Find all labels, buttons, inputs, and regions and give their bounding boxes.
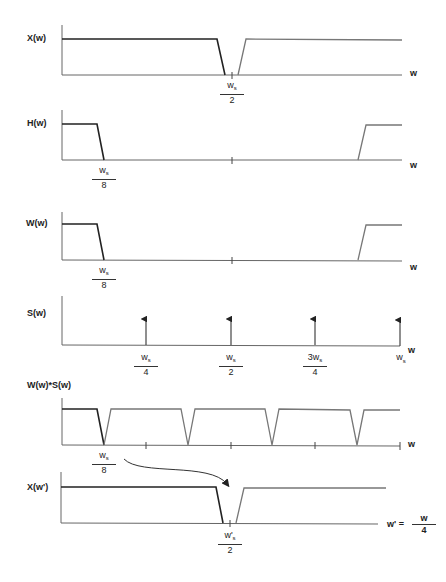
- tick-label-ws-over-2: ws 2: [220, 80, 244, 105]
- tick-label-ws-over-2-s: ws 2: [219, 352, 243, 377]
- panel-x: [62, 25, 402, 79]
- panel-h: [62, 110, 402, 164]
- tick-label-ws-over-8-w: ws 8: [92, 265, 116, 290]
- xlabel-x-prime: w' =: [387, 519, 404, 529]
- panel-w: [62, 212, 402, 264]
- tick-label-ws-over-8-conv: ws 8: [92, 450, 116, 475]
- ylabel-w: W(w): [26, 218, 48, 228]
- ylabel-convolution: W(w)*S(w): [27, 380, 71, 390]
- panel-s: [62, 296, 400, 346]
- panel-convolution: [62, 398, 400, 450]
- xlabel-x-prime-fraction: w 4: [412, 513, 436, 535]
- tick-label-ws-over-4: ws 4: [134, 352, 158, 377]
- tick-label-ws-over-8-h: ws 8: [92, 165, 116, 190]
- tick-label-wps-over-2: w's 2: [218, 530, 242, 555]
- xlabel-convolution: w: [408, 439, 415, 449]
- tick-label-3ws-over-4: 3ws 4: [303, 352, 327, 377]
- ylabel-h: H(w): [27, 118, 47, 128]
- ylabel-s: S(w): [27, 308, 46, 318]
- ylabel-x: X(w): [27, 33, 46, 43]
- xlabel-h: w: [410, 160, 417, 170]
- xlabel-x: w: [410, 68, 417, 78]
- mapping-arrow: [124, 459, 227, 484]
- tick-label-ws: ws: [389, 352, 413, 366]
- ylabel-x-prime: X(w'): [27, 482, 48, 492]
- xlabel-w: w: [410, 262, 417, 272]
